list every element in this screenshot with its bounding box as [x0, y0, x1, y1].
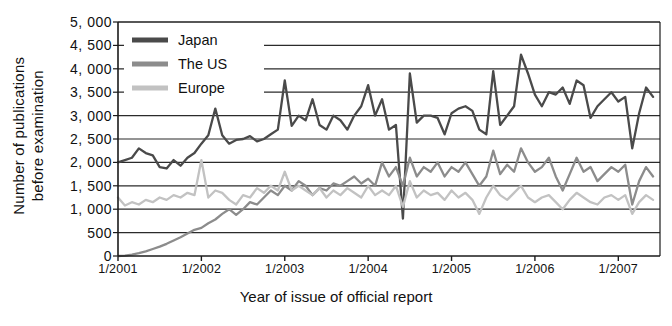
x-tick-label: 1/2006 [515, 262, 554, 276]
x-tick-label: 1/2002 [182, 262, 221, 276]
legend-label-japan: Japan [178, 32, 218, 48]
x-tick-label: 1/2004 [348, 262, 387, 276]
x-tick-label: 1/2005 [432, 262, 471, 276]
x-axis-title: Year of issue of official report [0, 288, 672, 305]
x-tick-label: 1/2003 [265, 262, 304, 276]
legend: JapanThe USEurope [124, 26, 264, 100]
legend-label-the-us: The US [178, 56, 227, 72]
x-tick-label: 1/2001 [98, 262, 137, 276]
plot-area: JapanThe USEurope [0, 0, 672, 326]
x-tick-label: 1/2007 [599, 262, 638, 276]
chart-container: Number of publications before examinatio… [0, 0, 672, 326]
legend-label-europe: Europe [178, 80, 225, 96]
